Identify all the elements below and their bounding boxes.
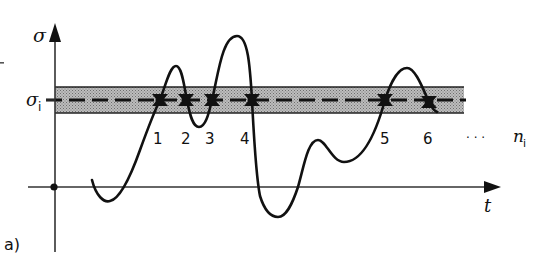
crossing-label-3: 3 [205, 130, 215, 148]
crossing-label-1: 1 [153, 130, 163, 148]
panel-label: a) [4, 235, 20, 254]
crossing-count-label: n i [513, 126, 526, 150]
crossing-ellipsis: · · · [466, 131, 485, 145]
x-axis-label: t [484, 195, 492, 216]
origin-dot [50, 183, 57, 190]
y-axis-label: σ [33, 24, 47, 46]
stress-time-diagram: σ σ i 1 2 3 4 5 6 · · · n i t a) [0, 0, 540, 264]
svg-text:i: i [523, 137, 526, 150]
svg-text:i: i [38, 100, 41, 114]
crossing-label-6: 6 [423, 130, 433, 148]
x-axis [28, 181, 501, 193]
y-axis-arrow-icon [49, 23, 61, 42]
stray-mark [0, 62, 4, 64]
x-axis-arrow-icon [484, 181, 501, 193]
crossing-label-2: 2 [181, 130, 191, 148]
stress-curve [92, 36, 437, 217]
y-axis [49, 23, 61, 252]
crossing-label-4: 4 [240, 130, 250, 148]
crossing-label-5: 5 [380, 130, 390, 148]
